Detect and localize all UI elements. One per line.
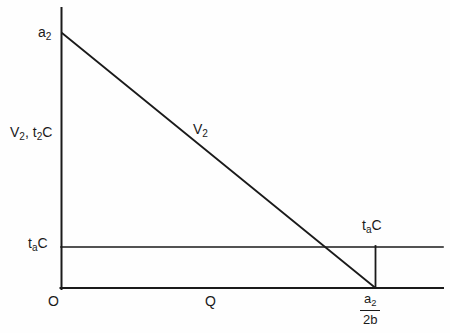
v2-curve-subscript: 2	[202, 128, 208, 139]
v2-curve-label: V2	[193, 122, 208, 139]
v2-demand-line	[62, 33, 376, 288]
y-axis-title-separator: , t	[25, 124, 37, 140]
fraction-denominator: 2b	[360, 312, 380, 326]
x-axis-label-quantity: Q	[205, 294, 216, 308]
y-intercept-label: a2	[38, 25, 51, 42]
y-intercept-symbol: a	[38, 24, 46, 40]
tac-axis-label: taC	[28, 236, 48, 253]
fraction-bar	[360, 310, 380, 311]
tac-axis-c: C	[38, 235, 48, 251]
y-intercept-subscript: 2	[46, 31, 52, 42]
tac-upper-c: C	[372, 217, 382, 233]
origin-label: O	[48, 294, 59, 308]
fraction: a2 2b	[360, 292, 380, 326]
figure-canvas: a2 V2, t2C V2 taC taC O Q a2 2b	[0, 0, 450, 333]
fraction-numerator: a2	[360, 292, 380, 309]
x-intercept-fraction-label: a2 2b	[360, 292, 380, 326]
y-axis-title: V2, t2C	[10, 125, 52, 142]
plot-svg	[0, 0, 450, 333]
v2-curve-symbol: V	[193, 121, 202, 137]
y-axis-title-v: V	[10, 124, 19, 140]
y-axis-title-c: C	[42, 124, 52, 140]
fraction-numerator-subscript: 2	[371, 298, 376, 308]
tac-upper-label: taC	[362, 218, 382, 235]
